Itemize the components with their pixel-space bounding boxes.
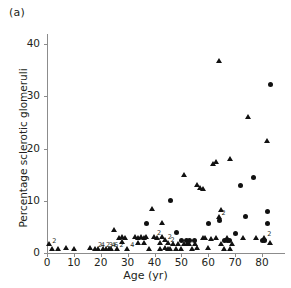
x-tick-label: 80 — [249, 256, 275, 268]
data-point-count-label: 2 — [52, 238, 56, 245]
y-tick-label: 10 — [14, 194, 40, 206]
data-point-count-label: 4 — [130, 242, 134, 249]
data-point-triangle — [194, 245, 200, 250]
x-tick-label: 30 — [115, 256, 141, 268]
data-point-count-label: 2 — [267, 231, 271, 238]
data-point-triangle — [245, 114, 251, 119]
y-axis-line — [47, 34, 48, 253]
data-point-triangle — [63, 245, 69, 250]
data-point-triangle — [181, 172, 187, 177]
data-point-circle — [251, 175, 256, 180]
y-tick-label: 30 — [14, 89, 40, 101]
y-tick-label: 0 — [14, 246, 40, 258]
data-point-triangle — [216, 58, 222, 63]
y-tick-mark — [44, 96, 48, 97]
data-point-triangle — [146, 246, 152, 251]
x-tick-label: 10 — [61, 256, 87, 268]
data-point-triangle — [205, 245, 211, 250]
x-tick-label: 20 — [88, 256, 114, 268]
y-tick-mark — [44, 253, 48, 254]
data-point-triangle — [55, 246, 61, 251]
y-tick-label: 40 — [14, 37, 40, 49]
scatter-plot-area: 01020304050607080010203040 2242346242222… — [0, 0, 291, 288]
data-point-triangle — [218, 207, 224, 212]
data-point-triangle — [213, 235, 219, 240]
data-point-circle — [265, 221, 270, 226]
figure-panel: (a) Percentage sclerotic glomeruli Age (… — [0, 0, 291, 288]
y-tick-mark — [44, 149, 48, 150]
data-point-triangle — [227, 156, 233, 161]
x-axis-line — [47, 253, 285, 254]
data-point-circle — [174, 230, 179, 235]
data-point-triangle — [253, 235, 259, 240]
data-point-triangle — [200, 186, 206, 191]
y-tick-label: 20 — [14, 142, 40, 154]
data-point-triangle — [143, 234, 149, 239]
data-point-triangle — [159, 220, 165, 225]
x-tick-label: 70 — [222, 256, 248, 268]
data-point-triangle — [119, 239, 125, 244]
data-point-circle — [144, 221, 149, 226]
data-point-circle — [265, 209, 270, 214]
x-tick-label: 60 — [195, 256, 221, 268]
data-point-triangle — [111, 227, 117, 232]
data-point-triangle — [122, 235, 128, 240]
data-point-circle — [179, 238, 184, 243]
data-point-triangle — [213, 159, 219, 164]
data-point-circle — [233, 231, 238, 236]
data-point-circle — [243, 214, 248, 219]
data-point-triangle — [267, 240, 273, 245]
data-point-circle — [238, 183, 243, 188]
data-point-triangle — [264, 138, 270, 143]
data-point-triangle — [240, 235, 246, 240]
x-tick-label: 40 — [142, 256, 168, 268]
data-point-circle — [168, 198, 173, 203]
data-point-triangle — [71, 246, 77, 251]
data-point-circle — [268, 82, 273, 87]
data-point-triangle — [149, 206, 155, 211]
data-point-circle — [206, 221, 211, 226]
x-tick-label: 50 — [168, 256, 194, 268]
y-tick-mark — [44, 44, 48, 45]
data-point-circle — [217, 218, 222, 223]
y-tick-mark — [44, 201, 48, 202]
